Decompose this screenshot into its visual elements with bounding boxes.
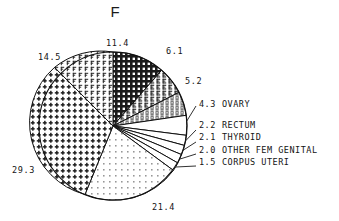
legend-item-ovary: 4.3 OVARY (199, 98, 337, 111)
legend: 4.3 OVARY 2.2 RECTUM 2.1 THYROID 2.0 OTH… (199, 98, 337, 169)
legend-label-thyroid: THYROID (219, 131, 261, 144)
pie-slices (30, 51, 187, 200)
legend-item-corpus-uteri: 1.5 CORPUS UTERI (199, 156, 337, 169)
chart-title: F (100, 3, 130, 20)
legend-item-other-fem-genital: 2.0 OTHER FEM GENITAL (199, 144, 337, 157)
legend-value-other-fem-genital: 2.0 (199, 144, 219, 157)
leader-line-corpus-uteri (176, 166, 196, 167)
legend-item-thyroid: 2.1 THYROID (199, 131, 337, 144)
chart-canvas: F 11.4 6.1 5.2 14.5 29.3 21.4 4.3 OVARY … (0, 0, 339, 221)
slice-label-6-1: 6.1 (166, 46, 183, 56)
legend-value-thyroid: 2.1 (199, 131, 219, 144)
legend-label-ovary: OVARY (219, 98, 250, 111)
legend-label-rectum: RECTUM (219, 119, 256, 132)
legend-value-ovary: 4.3 (199, 98, 219, 111)
slice-label-21-4: 21.4 (152, 202, 175, 212)
slice-label-29-3: 29.3 (12, 165, 35, 175)
leader-line-ovary (187, 106, 196, 121)
slice-label-14-5: 14.5 (38, 52, 61, 62)
legend-value-rectum: 2.2 (199, 119, 219, 132)
slice-label-5-2: 5.2 (185, 76, 202, 86)
legend-label-corpus-uteri: CORPUS UTERI (219, 156, 289, 169)
legend-value-corpus-uteri: 1.5 (199, 156, 219, 169)
legend-label-other-fem-genital: OTHER FEM GENITAL (219, 144, 318, 157)
legend-item-rectum: 2.2 RECTUM (199, 119, 337, 132)
leader-line-other-fem-genital (180, 154, 196, 159)
slice-label-11-4: 11.4 (106, 38, 129, 48)
